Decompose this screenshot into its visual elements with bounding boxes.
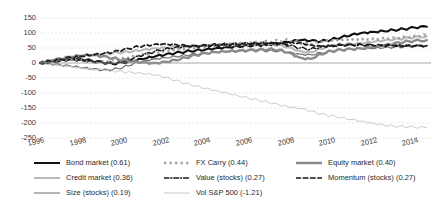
legend-swatch — [164, 188, 190, 198]
legend-swatch — [296, 173, 322, 183]
gridlines — [40, 18, 431, 138]
legend-item[interactable]: Size (stocks) (0.19) — [34, 185, 174, 200]
legend-column: Equity market (0.40)Momentum (stocks) (0… — [296, 155, 436, 185]
chart-svg — [0, 0, 441, 154]
x-axis-tick-label: 1996 — [27, 136, 45, 148]
chart-legend: Bond market (0.61)Credit market (0.36)Si… — [34, 155, 434, 203]
x-axis-tick-label: 2012 — [360, 136, 378, 148]
legend-column: Bond market (0.61)Credit market (0.36)Si… — [34, 155, 174, 200]
legend-label: Value (stocks) (0.27) — [196, 173, 265, 182]
x-axis-tick-label: 2006 — [235, 136, 253, 148]
legend-item[interactable]: Credit market (0.36) — [34, 170, 174, 185]
legend-label: FX Carry (0.44) — [196, 158, 248, 167]
x-axis-tick-label: 2014 — [401, 136, 419, 148]
legend-swatch — [34, 188, 60, 198]
series-line — [40, 45, 427, 71]
legend-swatch — [34, 173, 60, 183]
series-lines — [40, 26, 427, 128]
legend-label: Vol S&P 500 (-1.21) — [196, 188, 262, 197]
legend-swatch — [34, 158, 60, 168]
legend-column: FX Carry (0.44)Value (stocks) (0.27)Vol … — [164, 155, 304, 200]
legend-swatch — [164, 173, 190, 183]
legend-label: Momentum (stocks) (0.27) — [328, 173, 416, 182]
x-axis-tick-label: 2008 — [277, 136, 295, 148]
legend-item[interactable]: Vol S&P 500 (-1.21) — [164, 185, 304, 200]
legend-label: Credit market (0.36) — [66, 173, 133, 182]
legend-item[interactable]: Value (stocks) (0.27) — [164, 170, 304, 185]
legend-item[interactable]: FX Carry (0.44) — [164, 155, 304, 170]
legend-label: Size (stocks) (0.19) — [66, 188, 131, 197]
legend-item[interactable]: Equity market (0.40) — [296, 155, 436, 170]
series-line — [40, 62, 427, 128]
legend-item[interactable]: Momentum (stocks) (0.27) — [296, 170, 436, 185]
chart-container: 150100500-50-100-150-200-250 19961998200… — [0, 0, 441, 204]
legend-swatch — [164, 158, 190, 168]
x-axis-tick-label: 1998 — [69, 136, 87, 148]
x-axis-tick-label: 2010 — [318, 136, 336, 148]
legend-item[interactable]: Bond market (0.61) — [34, 155, 174, 170]
legend-label: Bond market (0.61) — [66, 158, 130, 167]
x-axis-labels: 1996199820002002200420062008201020122014 — [0, 138, 441, 154]
x-axis-tick-label: 2002 — [152, 136, 170, 148]
plot-area — [0, 0, 441, 154]
legend-label: Equity market (0.40) — [328, 158, 396, 167]
legend-swatch — [296, 158, 322, 168]
x-axis-tick-label: 2000 — [110, 136, 128, 148]
x-axis-tick-label: 2004 — [193, 136, 211, 148]
